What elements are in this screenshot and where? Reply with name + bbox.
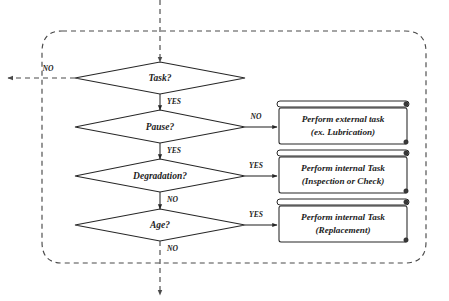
decision-task-label: Task?	[149, 73, 172, 83]
diagram-canvas: Task? NO YES Pause? NO YES	[0, 0, 449, 301]
process-internal-inspection[interactable]: Perform internal Task (Inspection or Che…	[277, 150, 409, 193]
process-internal-replacement-line2: (Replacement)	[315, 225, 370, 235]
decision-age-label: Age?	[149, 220, 170, 230]
decision-degradation-label: Degradation?	[132, 171, 187, 181]
decision-pause[interactable]: Pause?	[75, 110, 245, 143]
edge-pause-no: NO	[245, 112, 277, 127]
edge-task-yes-label: YES	[167, 97, 181, 106]
edge-task-no-label: NO	[42, 64, 54, 73]
edge-age-no-label: NO	[166, 244, 178, 253]
edge-age-yes-label: YES	[249, 210, 263, 219]
process-internal-replacement[interactable]: Perform internal Task (Replacement)	[277, 199, 409, 242]
process-external-task-line2: (ex. Lubrication)	[311, 127, 375, 137]
decision-task[interactable]: Task?	[75, 62, 245, 94]
edge-task-yes: YES	[160, 94, 181, 110]
edge-degradation-yes-label: YES	[249, 161, 263, 170]
edge-degradation-no-label: NO	[166, 195, 178, 204]
process-internal-inspection-line1: Perform internal Task	[301, 163, 385, 173]
flowchart-svg: Task? NO YES Pause? NO YES	[0, 0, 449, 301]
edge-degradation-yes: YES	[245, 161, 277, 176]
process-internal-replacement-line1: Perform internal Task	[301, 212, 385, 222]
decision-pause-label: Pause?	[146, 122, 175, 132]
edge-degradation-no: NO	[160, 192, 178, 209]
decision-age[interactable]: Age?	[75, 209, 245, 241]
process-external-task-line1: Perform external task	[302, 114, 385, 124]
process-internal-inspection-line2: (Inspection or Check)	[302, 176, 385, 186]
edge-pause-no-label: NO	[250, 112, 262, 121]
edge-pause-yes-label: YES	[167, 146, 181, 155]
decision-degradation[interactable]: Degradation?	[75, 159, 245, 192]
edge-pause-yes: YES	[160, 143, 181, 159]
edge-age-no: NO	[160, 241, 178, 295]
edge-age-yes: YES	[245, 210, 277, 225]
process-external-task[interactable]: Perform external task (ex. Lubrication)	[277, 101, 409, 144]
